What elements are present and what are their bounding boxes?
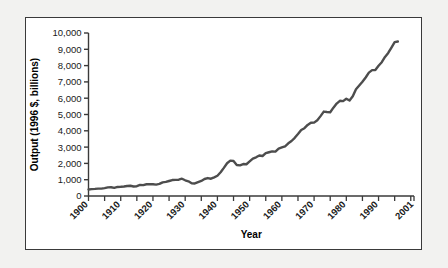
- y-tick-label: 8,000: [58, 60, 82, 71]
- x-axis-title: Year: [241, 229, 262, 240]
- data-series-line: [89, 41, 398, 189]
- x-tick-label: 1970: [293, 199, 316, 222]
- x-tick-label: 1950: [228, 199, 251, 222]
- y-tick-label: 9,000: [58, 44, 82, 55]
- y-tick-label: 3,000: [58, 142, 82, 153]
- x-tick-label: 1900: [67, 199, 90, 222]
- y-tick-label: 4,000: [58, 125, 82, 136]
- x-tick-label: 1980: [325, 199, 348, 222]
- x-tick-label: 1990: [357, 199, 380, 222]
- x-tick-label: 1940: [196, 199, 219, 222]
- y-axis-title: Output (1996 $, billions): [29, 58, 40, 171]
- x-axis: 1900191019201930194019501960197019801990…: [67, 196, 416, 221]
- chart-plot: 01,0002,0003,0004,0005,0006,0007,0008,00…: [0, 0, 448, 268]
- y-tick-label: 7,000: [58, 76, 82, 87]
- chart-figure: 01,0002,0003,0004,0005,0006,0007,0008,00…: [0, 0, 448, 268]
- y-tick-label: 10,000: [52, 27, 81, 38]
- y-tick-label: 5,000: [58, 109, 82, 120]
- x-axis-title-text: Year: [241, 229, 262, 240]
- y-tick-label: 1,000: [58, 174, 82, 185]
- y-axis-title-text: Output (1996 $, billions): [29, 58, 40, 171]
- x-tick-label: 1930: [164, 199, 187, 222]
- y-tick-label: 2,000: [58, 158, 82, 169]
- x-tick-label: 1960: [261, 199, 284, 222]
- y-axis: 01,0002,0003,0004,0005,0006,0007,0008,00…: [52, 27, 88, 201]
- x-tick-label: 1910: [99, 199, 122, 222]
- output-line: [89, 41, 398, 189]
- x-tick-label: 1920: [132, 199, 155, 222]
- x-tick-label: 2001: [393, 198, 416, 221]
- y-tick-label: 6,000: [58, 93, 82, 104]
